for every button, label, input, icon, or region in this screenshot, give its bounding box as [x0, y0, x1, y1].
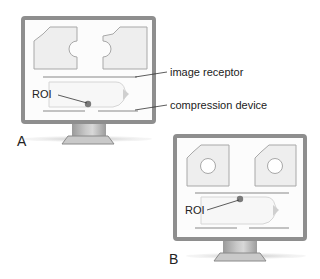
monitor-b-drawing: [173, 134, 307, 241]
compression-plate-b-left: [195, 227, 237, 229]
image-receptor-label: image receptor: [170, 67, 243, 78]
compression-device-leader: [135, 105, 167, 110]
monitor-b-base: [214, 253, 266, 263]
cutout-circle-b-right: [268, 159, 283, 174]
image-receptor-plate-b: [195, 192, 289, 194]
cutout-circle-b-left: [201, 159, 216, 174]
roi-dot-b: [237, 196, 243, 202]
projection-b-right: [255, 145, 296, 186]
compression-device-label: compression device: [170, 100, 267, 111]
roi-label-b: ROI: [185, 205, 205, 216]
projection-b-left: [187, 145, 229, 186]
panel-letter-b: B: [169, 252, 178, 266]
compression-plate-b-right: [249, 227, 289, 229]
image-receptor-leader: [135, 72, 167, 77]
